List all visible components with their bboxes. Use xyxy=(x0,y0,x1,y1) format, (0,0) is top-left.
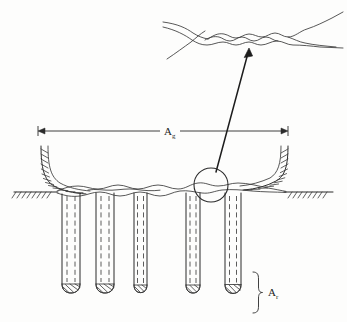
gross-area-subscript: g xyxy=(172,132,176,140)
dimension-arrow-right-icon xyxy=(281,128,288,134)
pile-area-subscript: r xyxy=(276,293,279,301)
detail-leader-arrow xyxy=(216,48,253,172)
pile-2-tip-hatching xyxy=(96,284,114,293)
pile-3-tip-hatching xyxy=(134,285,147,293)
arrowhead-icon xyxy=(244,48,252,58)
pile-5 xyxy=(225,193,241,293)
label-pile-area: A r xyxy=(268,286,279,301)
gross-area-symbol: A xyxy=(164,125,172,137)
dimension-arrow-left-icon xyxy=(38,128,45,134)
pile-5-tip-hatching xyxy=(225,285,241,294)
figure-root: A g A r xyxy=(0,0,347,322)
pile-3 xyxy=(134,193,147,293)
pile-4 xyxy=(186,193,200,293)
label-gross-area: A g xyxy=(164,125,176,140)
ground-hatching-left xyxy=(12,192,51,198)
pile-area-symbol: A xyxy=(268,286,276,298)
ground-hatching-right xyxy=(288,192,327,198)
pile-area-brace xyxy=(253,272,263,313)
engineering-diagram: A g A r xyxy=(0,0,347,322)
pile-2 xyxy=(96,193,114,293)
pile-4-tip-hatching xyxy=(186,285,200,293)
gross-width-dimension xyxy=(38,126,288,136)
magnified-roughness-detail xyxy=(163,12,343,59)
pile-1-tip-hatching xyxy=(62,284,80,293)
pile-1 xyxy=(62,194,80,293)
